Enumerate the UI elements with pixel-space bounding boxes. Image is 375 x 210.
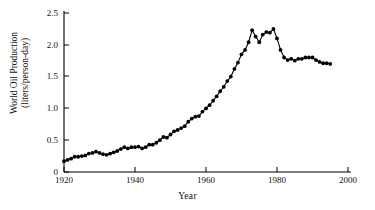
data-point: [105, 153, 109, 157]
data-point: [162, 135, 166, 139]
data-point: [204, 107, 208, 111]
data-point: [183, 124, 187, 128]
data-point: [133, 145, 137, 149]
data-point: [296, 57, 300, 61]
data-point: [318, 60, 322, 64]
y-tick-label-0-5: 0.5: [34, 136, 58, 145]
x-axis-title: Year: [0, 191, 375, 201]
data-point: [286, 58, 290, 62]
data-point: [300, 57, 304, 61]
data-point: [193, 115, 197, 119]
x-tick-label-1980: 1980: [257, 176, 297, 185]
data-point: [240, 52, 244, 56]
data-point: [169, 133, 173, 137]
y-tick-label-1-0: 1.0: [34, 104, 58, 113]
data-point: [257, 40, 261, 44]
data-point: [311, 56, 315, 60]
data-point: [272, 27, 276, 31]
data-point: [176, 128, 180, 132]
data-point: [250, 28, 254, 32]
x-tick-label-1940: 1940: [115, 176, 155, 185]
data-point: [154, 141, 158, 145]
data-point: [254, 35, 258, 39]
data-point: [108, 152, 112, 156]
x-tick-label-1920: 1920: [44, 176, 84, 185]
data-point: [76, 155, 80, 159]
data-point: [83, 154, 87, 158]
data-point: [151, 143, 155, 147]
data-point: [289, 57, 293, 61]
data-point: [137, 145, 141, 149]
data-point: [261, 33, 265, 37]
data-point: [119, 147, 123, 151]
data-point: [115, 149, 119, 153]
data-point: [87, 152, 91, 156]
data-point: [328, 62, 332, 66]
x-tick-label-1960: 1960: [186, 176, 226, 185]
data-point: [91, 151, 95, 155]
data-point: [144, 145, 148, 149]
y-tick-label-2-5: 2.5: [34, 9, 58, 18]
data-point: [314, 58, 318, 62]
data-point: [147, 143, 151, 147]
data-point: [98, 151, 102, 155]
data-point: [229, 75, 233, 79]
data-point: [126, 147, 130, 151]
data-point: [66, 158, 70, 162]
data-point: [307, 56, 311, 60]
data-point: [208, 103, 212, 107]
data-point: [190, 117, 194, 121]
data-point: [101, 152, 105, 156]
x-tick-label-2000: 2000: [328, 176, 368, 185]
data-point: [158, 138, 162, 142]
data-point: [325, 61, 329, 65]
data-point: [165, 136, 169, 140]
data-point: [122, 145, 126, 149]
y-axis-title: World Oil Production (liters/person-day): [9, 0, 31, 153]
data-point: [201, 110, 205, 114]
axis-lines: [64, 11, 351, 172]
data-point: [186, 120, 190, 124]
data-point: [112, 150, 116, 154]
data-point: [130, 145, 134, 149]
y-axis-title-line-2: (liters/person-day): [20, 0, 31, 153]
data-point: [321, 61, 325, 65]
data-point: [275, 37, 279, 41]
data-point: [282, 56, 286, 60]
data-point: [236, 61, 240, 65]
oil-production-series-line: [64, 29, 330, 161]
x-axis-ticks: [64, 167, 348, 172]
data-point: [211, 99, 215, 103]
data-point: [243, 48, 247, 52]
data-point: [268, 31, 272, 35]
data-point: [304, 56, 308, 60]
data-point: [80, 154, 84, 158]
y-tick-label-1-5: 1.5: [34, 72, 58, 81]
data-point: [94, 150, 98, 154]
y-axis-ticks: [64, 13, 69, 172]
oil-production-chart-figure: 0 0.5 1.0 1.5 2.0 2.5 1920 1940 1960 198…: [0, 0, 375, 210]
data-point: [69, 157, 73, 161]
data-point: [179, 126, 183, 130]
data-point: [62, 159, 66, 163]
data-point: [225, 79, 229, 83]
data-point: [218, 89, 222, 93]
data-point: [264, 30, 268, 34]
data-point: [140, 147, 144, 151]
data-point: [222, 85, 226, 89]
data-point: [247, 40, 251, 44]
y-axis-title-line-1: World Oil Production: [9, 32, 19, 114]
data-point: [73, 155, 77, 159]
data-point: [172, 129, 176, 133]
y-tick-label-2-0: 2.0: [34, 41, 58, 50]
data-point: [215, 94, 219, 98]
data-point: [293, 59, 297, 63]
data-point: [197, 114, 201, 118]
data-point: [279, 48, 283, 52]
oil-production-series-markers: [62, 27, 332, 163]
data-point: [233, 67, 237, 71]
